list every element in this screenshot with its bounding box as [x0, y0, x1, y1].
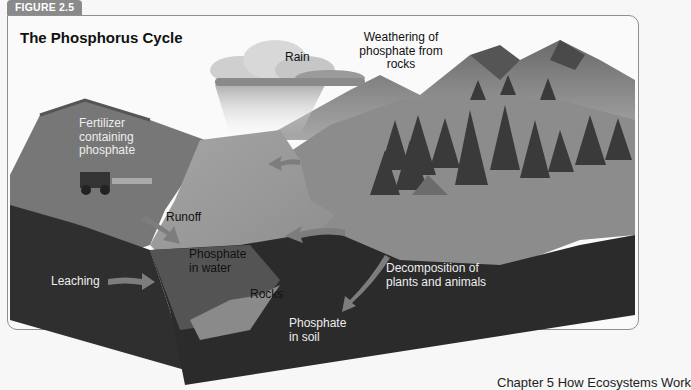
label-rocks: Rocks	[250, 288, 283, 302]
label-rain: Rain	[285, 51, 310, 65]
label-phosphate-in-water: Phosphate in water	[189, 248, 246, 275]
label-leaching: Leaching	[51, 275, 100, 289]
page-footer: Chapter 5 How Ecosystems Work	[497, 375, 691, 390]
label-phosphate-in-soil: Phosphate in soil	[289, 317, 346, 344]
label-runoff: Runoff	[166, 211, 201, 225]
label-weathering: Weathering of phosphate from rocks	[356, 31, 446, 72]
label-fertilizer: Fertilizer containing phosphate	[79, 117, 135, 158]
label-decomposition: Decomposition of plants and animals	[386, 262, 486, 289]
